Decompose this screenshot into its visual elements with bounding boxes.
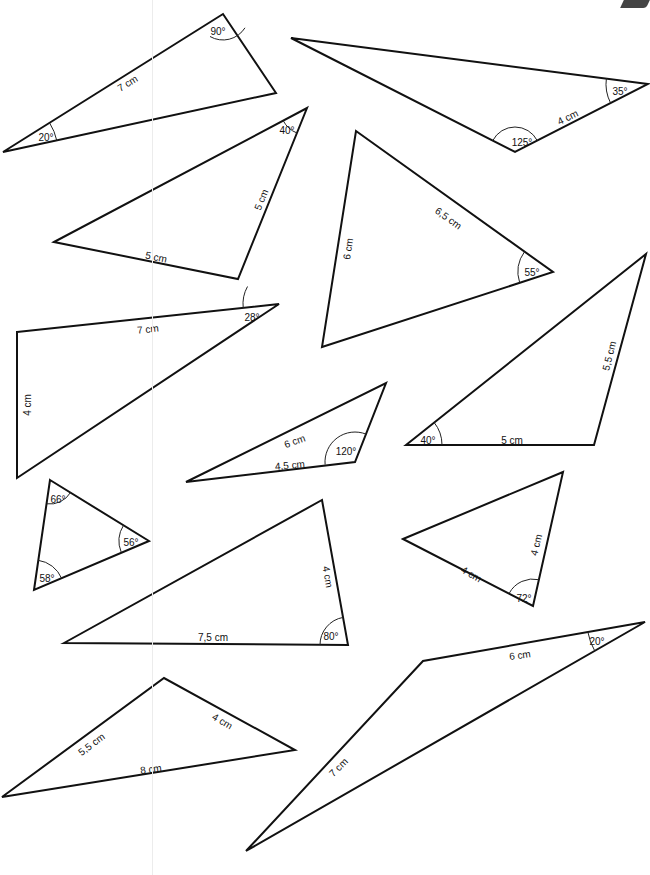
triangle-outline <box>64 500 348 645</box>
triangle-10: 4 cm4 cm72° <box>403 472 563 606</box>
angle-label: 55° <box>524 267 539 278</box>
side-length-label: 7 cm <box>115 73 139 94</box>
angle-label: 35° <box>612 86 627 97</box>
worksheet-page: 90°20°7 cm35°125°4 cm40°5 cm5 cm6,5 cm6 … <box>0 0 650 875</box>
angle-arc-icon <box>243 287 248 308</box>
side-length-label: 4 cm <box>459 564 483 584</box>
side-length-label: 6 cm <box>283 432 307 450</box>
triangle-5: 7 cm4 cm28° <box>17 304 279 478</box>
angle-arc-icon <box>509 579 539 593</box>
side-length-label: 4 cm <box>321 565 336 588</box>
triangles-drawing: 90°20°7 cm35°125°4 cm40°5 cm5 cm6,5 cm6 … <box>0 0 650 875</box>
side-length-label: 7,5 cm <box>198 632 228 643</box>
side-length-label: 4,5 cm <box>274 458 305 472</box>
side-length-label: 6 cm <box>341 237 355 260</box>
side-length-label: 5 cm <box>501 435 523 446</box>
triangle-outline <box>322 131 553 347</box>
side-length-label: 6,5 cm <box>433 205 464 232</box>
triangle-outline <box>246 622 645 851</box>
side-length-label: 5 cm <box>144 250 167 265</box>
corner-mark-icon <box>620 0 650 8</box>
side-length-label: 4 cm <box>22 394 33 416</box>
triangle-1: 90°20°7 cm <box>3 14 276 152</box>
triangle-outline <box>291 38 648 152</box>
angle-label: 72° <box>516 593 531 604</box>
angle-label: 40° <box>420 435 435 446</box>
triangle-4: 6,5 cm6 cm55° <box>322 131 553 347</box>
angle-label: 120° <box>336 446 357 457</box>
angle-label: 80° <box>323 631 338 642</box>
triangle-outline <box>2 678 295 797</box>
triangle-12: 7 cm6 cm20° <box>246 622 645 851</box>
angle-label: 28° <box>244 312 259 323</box>
angle-label: 125° <box>512 137 533 148</box>
angle-label: 20° <box>38 132 53 143</box>
angle-label: 90° <box>210 26 225 37</box>
side-length-label: 5,5 cm <box>76 731 107 758</box>
angle-label: 56° <box>123 537 138 548</box>
triangle-2: 35°125°4 cm <box>291 38 648 152</box>
angle-label: 58° <box>39 573 54 584</box>
triangle-8: 66°56°58° <box>34 480 149 590</box>
side-length-label: 4 cm <box>528 533 544 557</box>
triangle-9: 7,5 cm4 cm80° <box>64 500 348 645</box>
side-length-label: 6 cm <box>508 648 531 662</box>
triangle-11: 5,5 cm4 cm8 cm <box>2 678 295 797</box>
side-length-label: 8 cm <box>139 762 162 776</box>
side-length-label: 7 cm <box>137 323 160 336</box>
triangle-6: 40°5 cm5,5 cm <box>406 254 646 446</box>
angle-arc-icon <box>606 78 611 103</box>
paper-fold-line <box>152 0 153 875</box>
